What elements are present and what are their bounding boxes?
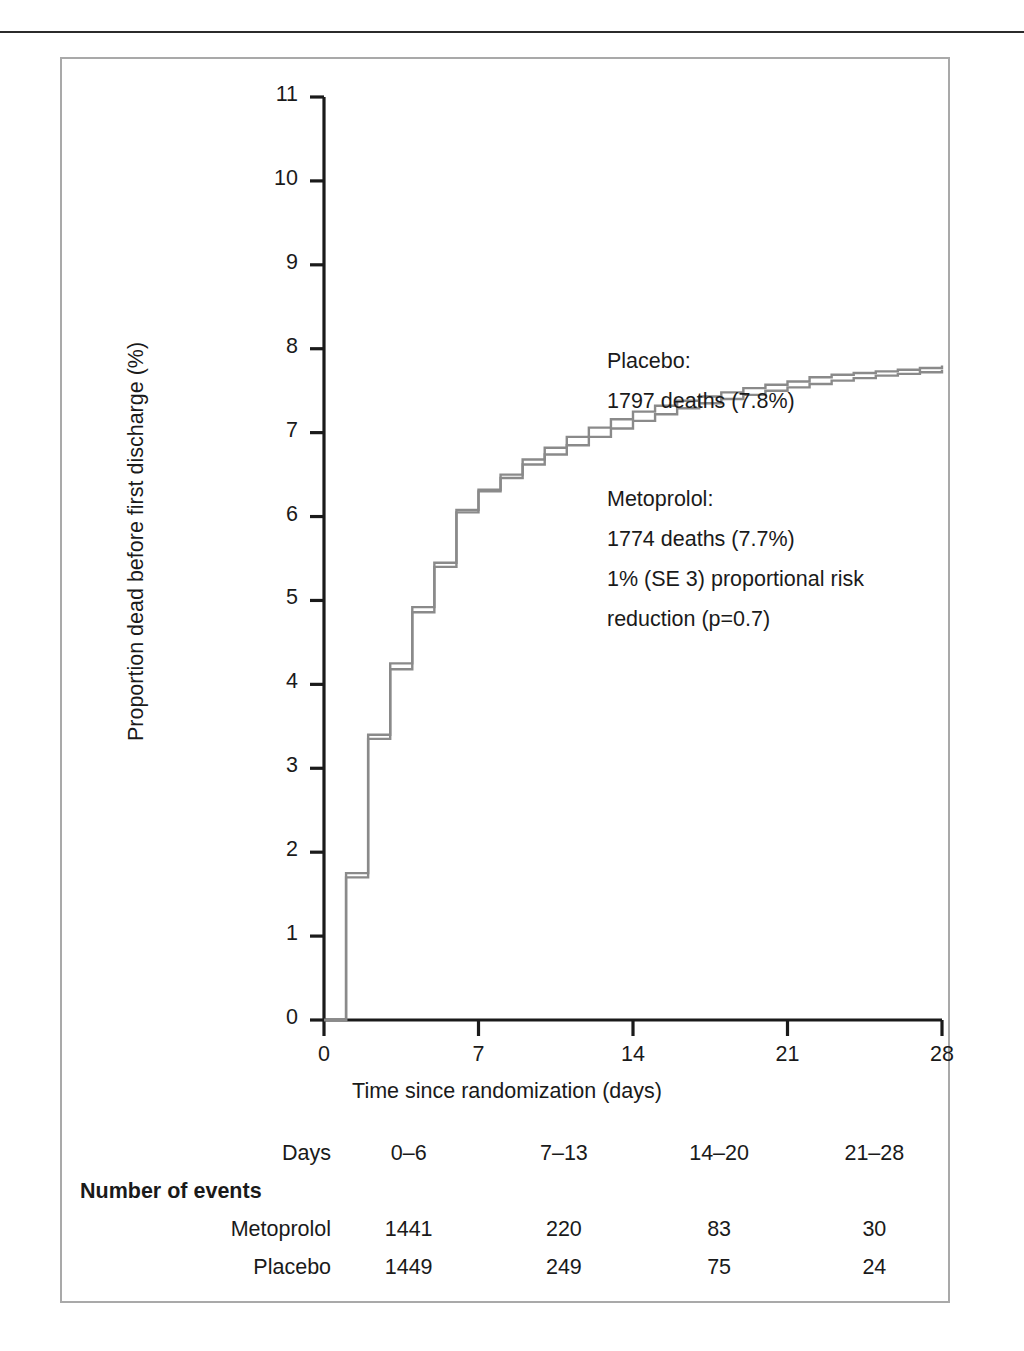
x-axis-title: Time since randomization (days) <box>62 1079 952 1104</box>
table-row: Placebo14492497524 <box>62 1248 952 1286</box>
annotation-metoprolol-title: Metoprolol: <box>607 479 795 519</box>
table-empty-cell <box>797 1172 952 1210</box>
table-section-row: Number of events <box>62 1172 952 1210</box>
curve-placebo <box>324 366 942 1020</box>
y-tick-label: 8 <box>258 334 298 359</box>
x-tick-label: 7 <box>449 1042 509 1067</box>
annotation-metoprolol: Metoprolol: 1774 deaths (7.7%) <box>607 479 795 559</box>
y-tick-label: 2 <box>258 837 298 862</box>
y-tick-label: 0 <box>258 1005 298 1030</box>
table-column-header: 7–13 <box>486 1134 641 1172</box>
y-axis-title: Proportion dead before first discharge (… <box>124 262 149 822</box>
table-row: Metoprolol14412208330 <box>62 1210 952 1248</box>
table-cell: 30 <box>797 1210 952 1248</box>
table-row-label: Metoprolol <box>62 1210 331 1248</box>
table-header-row: Days0–67–1314–2021–28 <box>62 1134 952 1172</box>
annotation-risk-line2: reduction (p=0.7) <box>607 599 864 639</box>
table-empty-cell <box>486 1172 641 1210</box>
plot-area: 01234567891011 07142128 Proportion dead … <box>62 59 952 1305</box>
y-tick-label: 3 <box>258 753 298 778</box>
y-tick-label: 5 <box>258 585 298 610</box>
table-cell: 249 <box>486 1248 641 1286</box>
y-tick-label: 7 <box>258 418 298 443</box>
table-column-header: 14–20 <box>642 1134 797 1172</box>
x-tick-label: 14 <box>603 1042 663 1067</box>
y-tick-label: 10 <box>258 166 298 191</box>
table-empty-cell <box>642 1172 797 1210</box>
y-tick-label: 1 <box>258 921 298 946</box>
annotation-placebo-deaths: 1797 deaths (7.8%) <box>607 381 795 421</box>
table-column-header: 21–28 <box>797 1134 952 1172</box>
table-column-header: 0–6 <box>331 1134 486 1172</box>
kaplan-meier-chart <box>62 59 952 1305</box>
y-tick-label: 11 <box>258 82 298 107</box>
table-cell: 75 <box>642 1248 797 1286</box>
table-cell: 1449 <box>331 1248 486 1286</box>
x-tick-label: 21 <box>758 1042 818 1067</box>
y-tick-label: 6 <box>258 502 298 527</box>
y-tick-label: 4 <box>258 669 298 694</box>
table-cell: 220 <box>486 1210 641 1248</box>
y-tick-label: 9 <box>258 250 298 275</box>
annotation-risk-line1: 1% (SE 3) proportional risk <box>607 559 864 599</box>
x-tick-label: 28 <box>912 1042 972 1067</box>
x-tick-label: 0 <box>294 1042 354 1067</box>
annotation-placebo: Placebo: 1797 deaths (7.8%) <box>607 341 795 421</box>
figure-frame: 01234567891011 07142128 Proportion dead … <box>60 57 950 1303</box>
table-cell: 1441 <box>331 1210 486 1248</box>
table-row-label: Placebo <box>62 1248 331 1286</box>
series-layer <box>324 366 942 1020</box>
curve-metoprolol <box>324 370 942 1020</box>
table-cell: 24 <box>797 1248 952 1286</box>
annotation-metoprolol-deaths: 1774 deaths (7.7%) <box>607 519 795 559</box>
annotation-placebo-title: Placebo: <box>607 341 795 381</box>
table-empty-cell <box>331 1172 486 1210</box>
annotation-risk-reduction: 1% (SE 3) proportional risk reduction (p… <box>607 559 864 639</box>
events-table: Days0–67–1314–2021–28Number of eventsMet… <box>62 1134 952 1286</box>
table-days-label: Days <box>62 1134 331 1172</box>
top-divider-rule <box>0 31 1024 33</box>
table-cell: 83 <box>642 1210 797 1248</box>
table-section-label: Number of events <box>62 1172 331 1210</box>
